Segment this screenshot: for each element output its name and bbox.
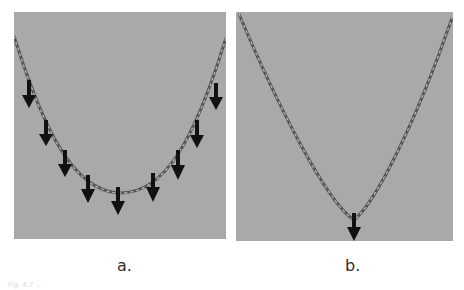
chain-curve-a — [14, 36, 226, 193]
panel-b-diagram — [236, 12, 453, 241]
chain-curve-b — [239, 14, 452, 220]
panel-a-distributed-load — [14, 12, 226, 239]
panel-a-diagram — [14, 12, 226, 239]
panel-a-label: a. — [117, 258, 132, 274]
panel-b-point-load — [236, 12, 453, 241]
down-arrow-icon — [171, 150, 185, 180]
load-arrows-a — [22, 80, 223, 215]
catenary-figure: a. b. Fig. 4.7 ... — [0, 0, 464, 290]
down-arrow-icon — [81, 175, 95, 203]
caption-fragment: Fig. 4.7 ... — [8, 281, 42, 289]
panel-b-label: b. — [345, 258, 360, 274]
down-arrow-icon — [190, 120, 204, 148]
